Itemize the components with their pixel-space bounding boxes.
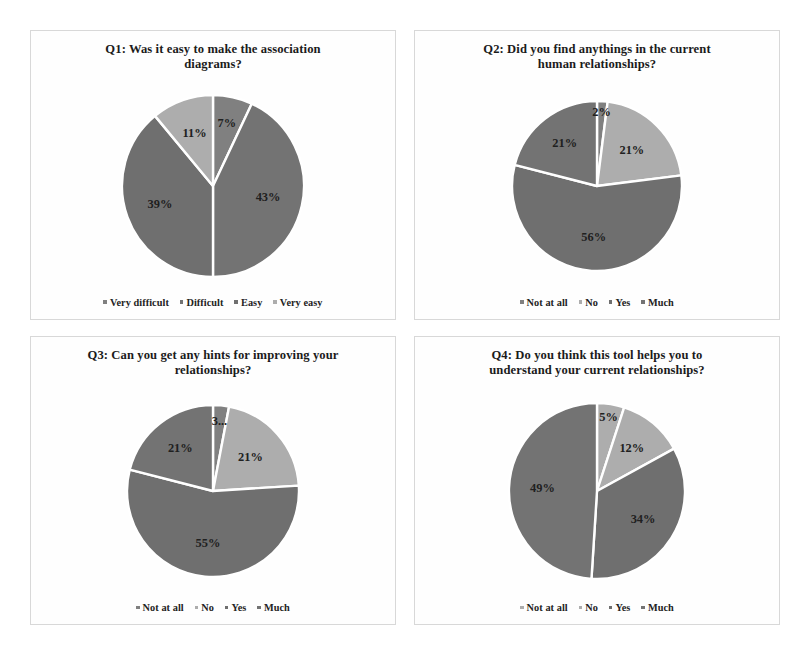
legend-label: Yes — [615, 602, 630, 613]
chart-panel-q1: Q1: Was it easy to make the associationd… — [30, 30, 396, 320]
legend-label: Much — [648, 297, 674, 308]
legend-swatch-icon — [195, 606, 199, 610]
legend-label: Not at all — [527, 602, 568, 613]
legend-item[interactable]: Easy — [234, 297, 262, 308]
chart-title-line: Q3: Can you get any hints for improving … — [88, 348, 339, 363]
chart-panel-q3: Q3: Can you get any hints for improving … — [30, 336, 396, 626]
pie-slice-label: 2% — [592, 104, 611, 118]
legend-item[interactable]: No — [579, 297, 598, 308]
legend-label: Difficult — [186, 297, 223, 308]
legend-item[interactable]: Very easy — [273, 297, 322, 308]
pie-slice-label: 56% — [581, 230, 606, 244]
legend-label: No — [585, 297, 598, 308]
legend-q3: Not at allNoYesMuch — [136, 602, 290, 616]
pie-slice-label: 21% — [168, 441, 193, 455]
pie-chart-q1: 7%43%39%11% — [106, 79, 320, 293]
pie-slice-label: 55% — [196, 536, 221, 550]
legend-label: Much — [648, 602, 674, 613]
pie-chart-grid: Q1: Was it easy to make the associationd… — [0, 0, 810, 661]
legend-label: No — [201, 602, 214, 613]
legend-swatch-icon — [609, 606, 613, 610]
legend-swatch-icon — [257, 606, 261, 610]
legend-label: Yes — [615, 297, 630, 308]
legend-label: Easy — [241, 297, 262, 308]
legend-label: Very difficult — [110, 297, 169, 308]
legend-swatch-icon — [520, 300, 524, 304]
pie-slice-label: 49% — [530, 481, 555, 495]
legend-item[interactable]: No — [195, 602, 214, 613]
chart-panel-q2: Q2: Did you find anythings in the curren… — [414, 30, 780, 320]
pie-slice-label: 5% — [599, 410, 618, 424]
pie-slice-label: 21% — [552, 136, 577, 150]
chart-title-line: Q4: Do you think this tool helps you to — [489, 348, 704, 363]
pie-slice-label: 21% — [619, 143, 644, 157]
pie-area-q4: 5%12%34%49% — [425, 380, 769, 602]
chart-title-q2: Q2: Did you find anythings in the curren… — [483, 42, 710, 73]
legend-swatch-icon — [609, 300, 613, 304]
pie-slice-label: 34% — [631, 512, 656, 526]
legend-item[interactable]: Much — [257, 602, 289, 613]
legend-item[interactable]: Not at all — [520, 602, 568, 613]
legend-label: Yes — [231, 602, 246, 613]
chart-title-line: Q2: Did you find anythings in the curren… — [483, 42, 710, 57]
pie-area-q1: 7%43%39%11% — [41, 75, 385, 297]
legend-item[interactable]: Yes — [609, 602, 631, 613]
legend-label: No — [585, 602, 598, 613]
legend-item[interactable]: Yes — [225, 602, 247, 613]
legend-swatch-icon — [641, 300, 645, 304]
legend-item[interactable]: Difficult — [180, 297, 224, 308]
legend-q4: Not at allNoYesMuch — [520, 602, 674, 616]
legend-item[interactable]: No — [579, 602, 598, 613]
legend-swatch-icon — [273, 300, 277, 304]
legend-q1: Very difficultDifficultEasyVery easy — [103, 297, 322, 311]
pie-slice-label: 3... — [212, 414, 228, 428]
legend-swatch-icon — [520, 606, 524, 610]
pie-chart-q4: 5%12%34%49% — [493, 387, 701, 595]
legend-item[interactable]: Much — [641, 602, 673, 613]
pie-slice-label: 21% — [238, 450, 263, 464]
pie-slice-label: 7% — [218, 115, 237, 129]
legend-swatch-icon — [641, 606, 645, 610]
chart-title-line: understand your current relationships? — [489, 363, 704, 378]
pie-area-q2: 2%21%56%21% — [425, 75, 769, 297]
chart-title-line: Q1: Was it easy to make the association — [105, 42, 320, 57]
legend-item[interactable]: Much — [641, 297, 673, 308]
legend-q2: Not at allNoYesMuch — [520, 297, 674, 311]
legend-item[interactable]: Yes — [609, 297, 631, 308]
legend-label: Much — [264, 602, 290, 613]
chart-title-line: relationships? — [88, 363, 339, 378]
pie-slice-label: 43% — [256, 190, 281, 204]
pie-chart-q2: 2%21%56%21% — [496, 85, 698, 287]
legend-label: Not at all — [143, 602, 184, 613]
pie-slice-label: 39% — [148, 197, 173, 211]
chart-title-q4: Q4: Do you think this tool helps you tou… — [489, 348, 704, 379]
legend-item[interactable]: Not at all — [520, 297, 568, 308]
legend-swatch-icon — [579, 606, 583, 610]
pie-slice-label: 12% — [619, 441, 644, 455]
legend-label: Very easy — [280, 297, 323, 308]
legend-swatch-icon — [234, 300, 238, 304]
legend-item[interactable]: Not at all — [136, 602, 184, 613]
legend-swatch-icon — [180, 300, 184, 304]
legend-swatch-icon — [579, 300, 583, 304]
legend-label: Not at all — [527, 297, 568, 308]
legend-swatch-icon — [225, 606, 229, 610]
chart-title-line: diagrams? — [105, 57, 320, 72]
legend-swatch-icon — [103, 300, 107, 304]
chart-panel-q4: Q4: Do you think this tool helps you tou… — [414, 336, 780, 626]
legend-item[interactable]: Very difficult — [103, 297, 168, 308]
chart-title-line: human relationships? — [483, 57, 710, 72]
pie-chart-q3: 3...21%55%21% — [111, 389, 315, 593]
pie-slice-label: 11% — [182, 126, 206, 140]
legend-swatch-icon — [136, 606, 140, 610]
chart-title-q1: Q1: Was it easy to make the associationd… — [105, 42, 320, 73]
pie-area-q3: 3...21%55%21% — [41, 380, 385, 602]
chart-title-q3: Q3: Can you get any hints for improving … — [88, 348, 339, 379]
